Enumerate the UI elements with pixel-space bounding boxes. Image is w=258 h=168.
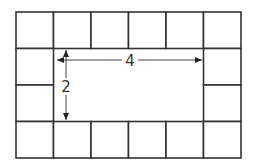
square — [16, 49, 54, 86]
width-label: 4 — [125, 52, 135, 70]
square — [166, 122, 204, 159]
square — [204, 12, 242, 49]
square — [204, 85, 242, 122]
height-label: 2 — [61, 78, 71, 96]
square — [16, 85, 54, 122]
width-dimension: 4 — [57, 52, 202, 70]
square — [91, 12, 129, 49]
bottom-row — [16, 122, 241, 159]
square — [54, 122, 92, 159]
square — [16, 122, 54, 159]
square — [16, 12, 54, 49]
square — [91, 122, 129, 159]
square — [129, 12, 167, 49]
top-row — [16, 12, 241, 49]
square — [54, 12, 92, 49]
left-column — [16, 49, 54, 122]
square — [204, 122, 242, 159]
right-column — [204, 49, 242, 122]
square — [204, 49, 242, 86]
square — [129, 122, 167, 159]
square — [166, 12, 204, 49]
border-squares-diagram: 4 2 — [0, 0, 258, 168]
